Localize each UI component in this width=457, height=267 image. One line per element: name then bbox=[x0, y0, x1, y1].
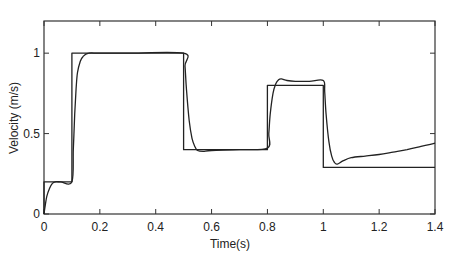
x-tick-label: 0.8 bbox=[259, 220, 276, 234]
x-tick-label: 1.4 bbox=[427, 220, 444, 234]
x-tick-label: 1 bbox=[320, 220, 327, 234]
x-tick-label: 0.6 bbox=[203, 220, 220, 234]
x-tick-label: 0 bbox=[41, 220, 48, 234]
x-tick-label: 0.2 bbox=[92, 220, 109, 234]
x-tick-label: 0.4 bbox=[147, 220, 164, 234]
series-response bbox=[44, 52, 435, 214]
y-axis-ticks: 00.51 bbox=[23, 46, 435, 221]
y-tick-label: 0.5 bbox=[23, 127, 40, 141]
velocity-chart: 00.20.40.60.811.21.4 00.51 Time(s) Veloc… bbox=[0, 0, 457, 267]
x-axis-label: Time(s) bbox=[210, 237, 250, 251]
y-tick-label: 0 bbox=[33, 207, 40, 221]
plot-frame bbox=[44, 21, 435, 214]
plot-border bbox=[44, 21, 435, 214]
y-axis-label: Velocity (m/s) bbox=[7, 82, 21, 154]
series-layer bbox=[44, 52, 435, 214]
y-tick-label: 1 bbox=[33, 46, 40, 60]
series-reference bbox=[44, 53, 435, 214]
x-tick-label: 1.2 bbox=[371, 220, 388, 234]
